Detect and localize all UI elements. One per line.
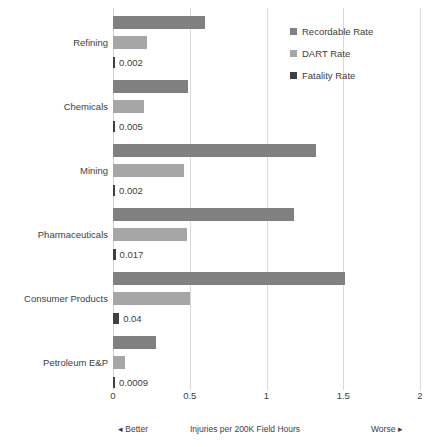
bar-fatality-rate bbox=[113, 313, 119, 324]
x-tick-2: 2 bbox=[417, 390, 422, 401]
bar-dart-rate bbox=[113, 100, 144, 113]
bar-group: 0.002 bbox=[113, 144, 420, 197]
x-axis-title: Injuries per 200K Field Hours bbox=[190, 424, 300, 434]
legend-label: DART Rate bbox=[302, 48, 350, 59]
fatality-rate-data-label: 0.0009 bbox=[119, 377, 148, 388]
legend-label: Recordable Rate bbox=[302, 26, 373, 37]
x-axis-tick-labels: 00.511.52 bbox=[113, 390, 420, 406]
bar-fatality-rate bbox=[113, 57, 115, 68]
legend-swatch-icon bbox=[290, 28, 297, 35]
category-label-mining: Mining bbox=[0, 165, 108, 176]
bar-fatality-rate bbox=[113, 249, 116, 260]
category-label-petroleum-e-p: Petroleum E&P bbox=[0, 357, 108, 368]
bar-recordable-rate bbox=[113, 208, 294, 221]
bar-fatality-rate bbox=[113, 377, 115, 388]
legend-swatch-icon bbox=[290, 72, 297, 79]
bar-group: 0.0009 bbox=[113, 336, 420, 389]
bar-dart-rate bbox=[113, 36, 147, 49]
injury-rate-bar-chart: 0.0020.0050.0020.0170.040.0009 RefiningC… bbox=[0, 0, 435, 447]
fatality-rate-data-label: 0.04 bbox=[123, 313, 142, 324]
worse-direction-annotation: Worse ▸ bbox=[371, 424, 403, 434]
legend-label: Fatality Rate bbox=[302, 70, 355, 81]
fatality-rate-data-label: 0.005 bbox=[119, 121, 143, 132]
legend-item: Recordable Rate bbox=[290, 20, 435, 42]
bar-group: 0.005 bbox=[113, 80, 420, 133]
bar-dart-rate bbox=[113, 292, 190, 305]
bar-dart-rate bbox=[113, 164, 184, 177]
legend-swatch-icon bbox=[290, 50, 297, 57]
bar-recordable-rate bbox=[113, 144, 316, 157]
bar-fatality-rate bbox=[113, 121, 115, 132]
bar-recordable-rate bbox=[113, 272, 345, 285]
fatality-rate-data-label: 0.017 bbox=[120, 249, 144, 260]
x-tick-0: 0 bbox=[110, 390, 115, 401]
chart-legend: Recordable RateDART RateFatality Rate bbox=[290, 20, 435, 86]
bar-group: 0.04 bbox=[113, 272, 420, 325]
fatality-rate-data-label: 0.002 bbox=[119, 185, 143, 196]
legend-item: Fatality Rate bbox=[290, 64, 435, 86]
bar-recordable-rate bbox=[113, 16, 205, 29]
x-tick-1: 1 bbox=[264, 390, 269, 401]
bar-recordable-rate bbox=[113, 336, 156, 349]
better-direction-annotation: ◂ Better bbox=[118, 424, 148, 434]
bar-dart-rate bbox=[113, 228, 187, 241]
bar-recordable-rate bbox=[113, 80, 188, 93]
x-tick-1.5: 1.5 bbox=[337, 390, 350, 401]
fatality-rate-data-label: 0.002 bbox=[119, 57, 143, 68]
category-label-consumer-products: Consumer Products bbox=[0, 293, 108, 304]
category-label-refining: Refining bbox=[0, 37, 108, 48]
bar-fatality-rate bbox=[113, 185, 115, 196]
category-label-chemicals: Chemicals bbox=[0, 101, 108, 112]
bar-group: 0.017 bbox=[113, 208, 420, 261]
x-tick-0.5: 0.5 bbox=[183, 390, 196, 401]
bar-dart-rate bbox=[113, 356, 125, 369]
legend-item: DART Rate bbox=[290, 42, 435, 64]
category-label-pharmaceuticals: Pharmaceuticals bbox=[0, 229, 108, 240]
